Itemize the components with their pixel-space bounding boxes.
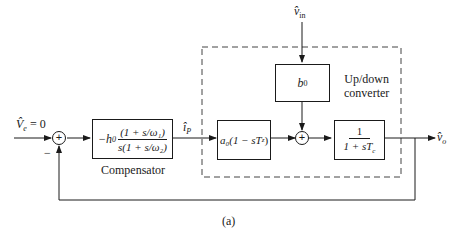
figure-caption: (a) (222, 215, 235, 227)
ip-signal-label: îP (183, 121, 191, 136)
converter-label-line2: converter (344, 86, 389, 100)
input-subscript: e (23, 124, 27, 133)
lag-denominator-sub: c (372, 147, 375, 155)
ip-subscript: P (186, 127, 191, 136)
vin-subscript: in (299, 11, 305, 20)
compensator-numerator: (1 + s/ω₁) (118, 126, 167, 140)
summer1-plus-sign: + (56, 131, 62, 143)
output-label: v̂o (437, 131, 446, 146)
b0-block: b0 (275, 64, 330, 102)
a0-block: a₀(1 − sTz) (217, 120, 271, 160)
a0-expression: a₀(1 − sT (220, 134, 262, 146)
feedback-minus-sign: − (44, 147, 51, 159)
compensator-gain: −h (98, 132, 112, 147)
lag-fraction: 1 1 + sTc (344, 125, 376, 155)
compensator-denominator: s(1 + s/ω₂) (118, 140, 167, 153)
compensator-label: Compensator (101, 164, 165, 176)
input-equals: = 0 (30, 117, 46, 131)
a0-close-paren: ) (264, 134, 268, 146)
disturbance-label: v̂in (294, 5, 306, 20)
lag-denominator: 1 + sTc (344, 139, 376, 155)
lag-denominator-text: 1 + sT (344, 140, 373, 152)
input-label: V̂e = 0 (16, 118, 46, 133)
summer2-plus-sign: + (299, 131, 305, 143)
converter-label: Up/down converter (344, 72, 389, 100)
compensator-block: −h0 (1 + s/ω₁) s(1 + s/ω₂) (92, 119, 173, 159)
converter-label-line1: Up/down (344, 72, 389, 86)
compensator-gain-sub: 0 (112, 135, 116, 144)
compensator-fraction: (1 + s/ω₁) s(1 + s/ω₂) (118, 126, 167, 153)
lag-numerator: 1 (349, 125, 371, 139)
summing-junction-2: + (295, 131, 309, 145)
signal-wires (0, 0, 461, 232)
b0-subscript: 0 (304, 79, 308, 88)
vo-subscript: o (442, 137, 446, 146)
lag-block: 1 1 + sTc (334, 120, 385, 160)
summing-junction-1: + (52, 131, 66, 145)
